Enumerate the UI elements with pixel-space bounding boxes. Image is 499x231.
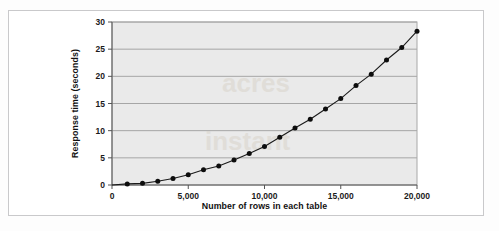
data-point-4000 [171,176,176,181]
data-point-16000 [354,83,359,88]
x-tick-label-5000: 5,000 [178,191,200,201]
svg-text:acres: acres [222,68,290,98]
response-time-chart: instant acres 051015202530 05,00010,0001… [0,0,499,231]
x-axis-ticks-group: 05,00010,00015,00020,000 [110,185,431,201]
y-tick-label-10: 10 [96,126,106,136]
data-point-1000 [125,181,130,186]
data-point-13000 [308,117,313,122]
x-tick-label-20000: 20,000 [404,191,430,201]
y-axis-ticks-group: 051015202530 [96,17,112,190]
data-point-15000 [338,96,343,101]
x-tick-label-15000: 15,000 [328,191,354,201]
data-point-12000 [293,125,298,130]
data-point-20000 [415,29,420,34]
y-tick-label-20: 20 [96,71,106,81]
y-tick-label-0: 0 [100,180,105,190]
data-point-5000 [186,172,191,177]
x-tick-label-10000: 10,000 [252,191,278,201]
data-point-14000 [323,106,328,111]
data-point-17000 [369,72,374,77]
figure-container: instant acres 051015202530 05,00010,0001… [0,0,499,231]
data-point-8000 [232,158,237,163]
data-point-2000 [140,181,145,186]
y-axis-title: Response time (seconds) [70,49,80,158]
data-point-6000 [201,167,206,172]
data-point-18000 [384,58,389,63]
data-point-19000 [399,45,404,50]
y-tick-label-5: 5 [100,153,105,163]
data-point-9000 [247,151,252,156]
data-point-7000 [216,163,221,168]
data-point-11000 [277,135,282,140]
data-point-3000 [155,179,160,184]
x-tick-label-0: 0 [110,191,115,201]
x-axis-title: Number of rows in each table [202,201,328,211]
y-tick-label-25: 25 [96,44,106,54]
data-point-10000 [262,144,267,149]
y-tick-label-15: 15 [96,99,106,109]
y-tick-label-30: 30 [96,17,106,27]
